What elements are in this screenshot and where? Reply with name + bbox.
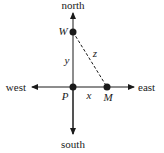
label-segment-y: y <box>64 54 70 66</box>
label-point-w: W <box>58 25 68 37</box>
label-north: north <box>61 0 85 11</box>
point-p <box>70 84 77 91</box>
label-west: west <box>6 81 26 93</box>
point-m <box>104 84 111 91</box>
label-south: south <box>61 138 85 150</box>
compass-diagram: north south west east W P M x y z <box>0 0 164 153</box>
label-east: east <box>138 81 155 93</box>
label-point-p: P <box>61 90 69 102</box>
point-w <box>70 29 77 36</box>
label-segment-z: z <box>92 47 98 59</box>
segment-z <box>73 32 107 87</box>
label-segment-x: x <box>86 89 92 101</box>
label-point-m: M <box>102 91 113 103</box>
